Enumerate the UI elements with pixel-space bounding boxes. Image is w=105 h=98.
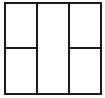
left-divider xyxy=(36,4,38,93)
left-horizontal-divider xyxy=(6,47,36,49)
right-horizontal-divider xyxy=(70,47,100,49)
outer-frame xyxy=(4,2,102,95)
